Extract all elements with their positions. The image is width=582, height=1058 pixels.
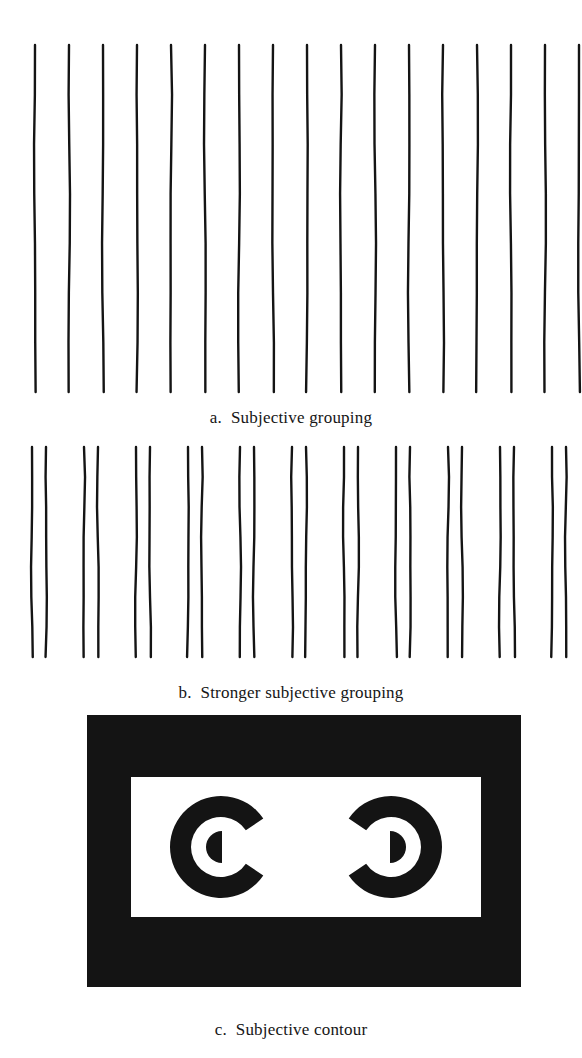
- grouping-line: [442, 45, 444, 392]
- panel-b-caption: b. Stronger subjective grouping: [0, 675, 582, 711]
- grouping-line: [374, 45, 376, 392]
- grouping-line: [272, 45, 274, 392]
- grouping-line: [544, 45, 546, 392]
- grouping-line: [34, 45, 36, 392]
- panel-b-artwork: [0, 435, 582, 675]
- grouping-line: [291, 447, 293, 657]
- grouping-line: [461, 447, 463, 657]
- grouping-line: [305, 447, 307, 657]
- grouping-line: [343, 447, 344, 657]
- grouping-line: [357, 447, 359, 657]
- panel-b: [0, 435, 582, 675]
- line-array-uniform: [34, 45, 580, 392]
- grouping-line: [102, 45, 104, 392]
- grouping-line: [204, 45, 206, 392]
- grouping-line: [238, 45, 240, 392]
- panel-a-artwork: [0, 0, 582, 400]
- grouping-line: [69, 45, 71, 392]
- grouping-line: [83, 447, 85, 657]
- grouping-line: [476, 45, 478, 392]
- grouping-line: [170, 45, 172, 392]
- grouping-line: [447, 447, 449, 657]
- panel-a-caption: a. Subjective grouping: [0, 400, 582, 435]
- grouping-line: [513, 447, 515, 657]
- panel-a: [0, 0, 582, 400]
- grouping-line: [135, 447, 137, 657]
- grouping-line: [306, 45, 308, 392]
- grouping-line: [395, 447, 397, 657]
- grouping-line: [565, 447, 567, 657]
- grouping-line: [31, 447, 33, 657]
- figure-page: a. Subjective grouping b. Stronger subje…: [0, 0, 582, 1058]
- grouping-line: [201, 447, 203, 657]
- grouping-line: [253, 447, 254, 657]
- panel-c: [0, 711, 582, 1011]
- grouping-line: [239, 447, 241, 657]
- grouping-line: [551, 447, 553, 657]
- grouping-line: [578, 45, 580, 392]
- grouping-line: [97, 447, 99, 657]
- grouping-line: [149, 447, 151, 657]
- grouping-line: [408, 45, 409, 392]
- grouping-line: [46, 447, 47, 657]
- line-array-paired: [31, 447, 567, 657]
- grouping-line: [340, 45, 342, 392]
- grouping-line: [409, 447, 410, 657]
- panel-c-caption: c. Subjective contour: [0, 1011, 582, 1049]
- grouping-line: [137, 45, 138, 392]
- grouping-line: [187, 447, 189, 657]
- panel-c-artwork: [0, 711, 582, 1011]
- grouping-line: [499, 447, 501, 657]
- grouping-line: [510, 45, 511, 392]
